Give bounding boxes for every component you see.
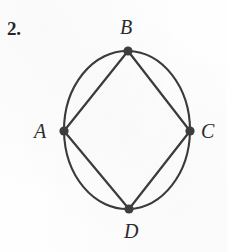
vertex-dot-a [59,126,68,135]
chord-edge-d-a [64,131,129,209]
ink-layer [59,46,194,213]
figure-container: 2. A B C D [0,0,227,252]
vertex-label-c: C [201,121,214,141]
vertex-label-a: A [34,121,46,141]
vertex-dot-d [124,204,133,213]
chord-edge-a-b [64,51,128,131]
vertex-dot-c [185,126,194,135]
vertex-dot-b [123,46,132,55]
vertex-label-b: B [120,17,132,37]
vertex-label-d: D [124,221,138,241]
